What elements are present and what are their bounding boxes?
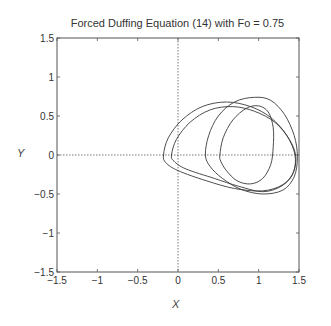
x-tick-label: 1.5 [292,275,306,286]
y-tick-label: −0.5 [34,189,54,200]
x-tick-label: −1 [92,275,104,286]
orbit-loop-3 [205,97,297,194]
x-tick-label: 0 [175,275,181,286]
x-tick-label: 0.5 [211,275,225,286]
y-tick-label: 1 [48,72,54,83]
orbit-loop-1 [163,102,295,191]
y-tick-label: −1.5 [34,267,54,278]
orbit-curves [163,97,297,194]
x-tick-label: −0.5 [128,275,148,286]
x-tick-label: 1 [256,275,262,286]
axis-ticks: −1.5−1−0.500.511.5−1.5−1−0.500.511.5 [34,33,306,286]
y-tick-label: 1.5 [40,33,54,44]
y-tick-label: 0.5 [40,111,54,122]
orbit-loop-4 [220,106,274,184]
y-tick-label: −1 [43,228,55,239]
y-tick-label: 0 [48,150,54,161]
reference-lines [57,38,299,272]
phase-plot: −1.5−1−0.500.511.5−1.5−1−0.500.511.5 [0,0,331,326]
